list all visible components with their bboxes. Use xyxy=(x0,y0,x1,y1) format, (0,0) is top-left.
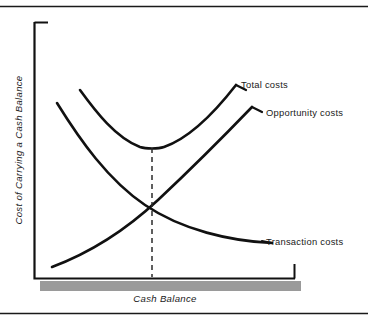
axis-drop-shadow xyxy=(40,281,301,291)
label-opportunity-costs: Opportunity costs xyxy=(266,107,343,118)
x-axis-title: Cash Balance xyxy=(133,293,196,304)
figure-background xyxy=(0,0,368,319)
label-total-costs: Total costs xyxy=(241,79,288,90)
label-transaction-costs: Transaction costs xyxy=(266,236,343,247)
cash-balance-cost-chart: Total costs Opportunity costs Transactio… xyxy=(0,0,368,319)
y-axis-title: Cost of Carrying a Cash Balance xyxy=(13,75,24,224)
